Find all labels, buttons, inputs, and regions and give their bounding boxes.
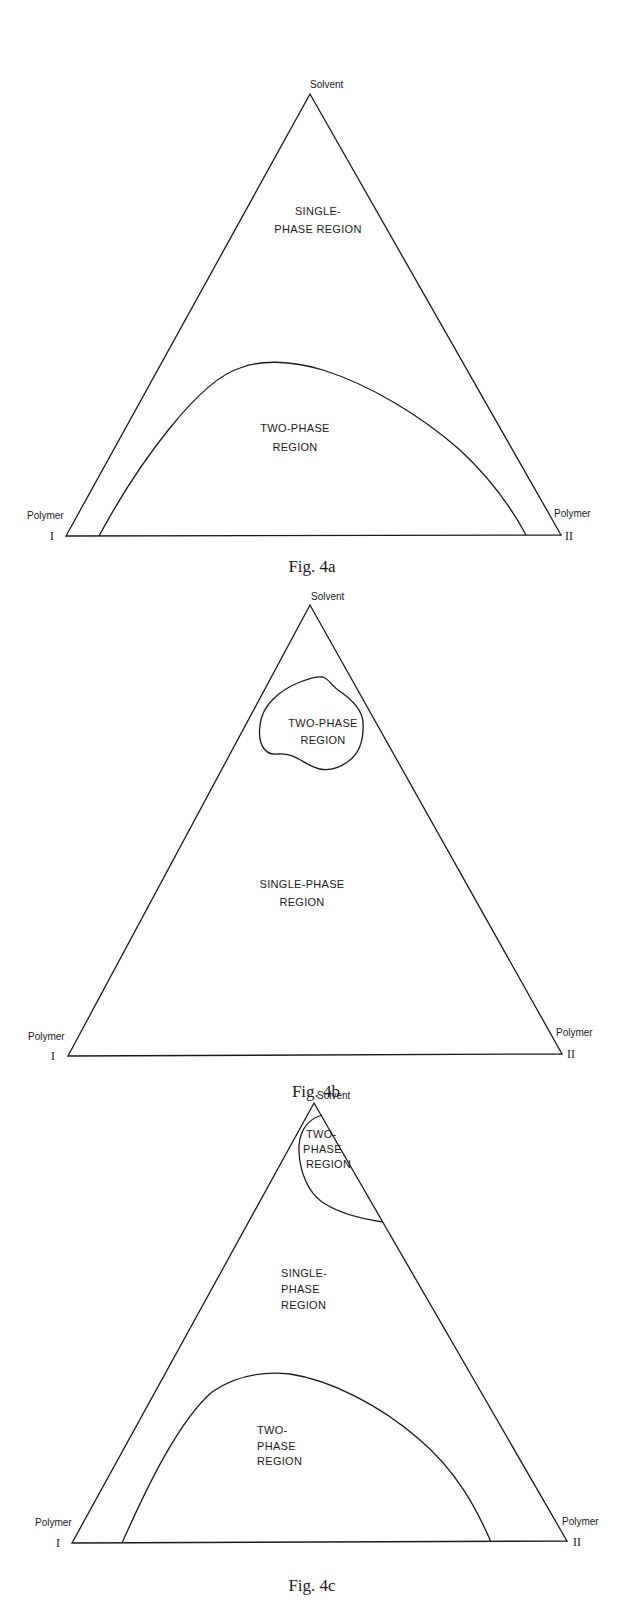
vertex-label-solvent: Solvent <box>311 591 345 602</box>
vertex-numeral-1: I <box>56 1536 60 1550</box>
vertex-numeral-1: I <box>51 1049 55 1063</box>
region-label-single-phase: REGION <box>279 896 324 908</box>
region-label-single-phase: SINGLE- <box>281 1267 327 1279</box>
region-label-two-phase-small: PHASE <box>303 1143 342 1155</box>
figure-4c: Solvent Polymer I Polymer II TWO- PHASE … <box>35 1090 599 1595</box>
region-label-two-phase: REGION <box>300 734 345 746</box>
vertex-label-solvent: Solvent <box>317 1090 351 1101</box>
region-label-single-phase: SINGLE- <box>295 205 341 217</box>
vertex-label-polymer-2: Polymer <box>554 508 591 519</box>
vertex-label-polymer-1: Polymer <box>28 1031 65 1042</box>
figure-4a: Solvent Polymer I Polymer II SINGLE- PHA… <box>27 79 591 576</box>
region-label-single-phase: SINGLE-PHASE <box>260 878 345 890</box>
region-label-two-phase: REGION <box>272 441 317 453</box>
triangle-4a <box>66 94 561 536</box>
vertex-numeral-1: I <box>50 529 54 543</box>
vertex-numeral-2: II <box>573 1535 581 1549</box>
triangle-4b <box>68 605 562 1056</box>
vertex-numeral-2: II <box>567 1047 575 1061</box>
figure-4b: Solvent Polymer I Polymer II TWO-PHASE R… <box>28 591 593 1101</box>
region-label-two-phase-small: TWO- <box>306 1128 337 1140</box>
vertex-label-polymer-1: Polymer <box>27 510 64 521</box>
vertex-label-polymer-1: Polymer <box>35 1517 72 1528</box>
ternary-phase-diagrams: Solvent Polymer I Polymer II SINGLE- PHA… <box>0 0 629 1620</box>
region-label-two-phase-small: REGION <box>306 1158 351 1170</box>
region-label-single-phase: REGION <box>281 1299 326 1311</box>
region-label-two-phase: TWO-PHASE <box>288 717 357 729</box>
caption-4a: Fig. 4a <box>288 557 336 576</box>
vertex-numeral-2: II <box>565 529 573 543</box>
vertex-label-solvent: Solvent <box>310 79 344 90</box>
region-label-two-phase: TWO-PHASE <box>260 422 329 434</box>
vertex-label-polymer-2: Polymer <box>562 1516 599 1527</box>
region-label-two-phase-large: TWO- <box>257 1424 288 1436</box>
region-label-single-phase: PHASE REGION <box>274 223 361 235</box>
vertex-label-polymer-2: Polymer <box>556 1027 593 1038</box>
region-label-two-phase-large: REGION <box>257 1455 302 1467</box>
region-label-two-phase-large: PHASE <box>257 1440 296 1452</box>
binodal-curve-4c <box>122 1373 491 1543</box>
caption-4c: Fig. 4c <box>288 1576 336 1595</box>
region-label-single-phase: PHASE <box>281 1283 320 1295</box>
